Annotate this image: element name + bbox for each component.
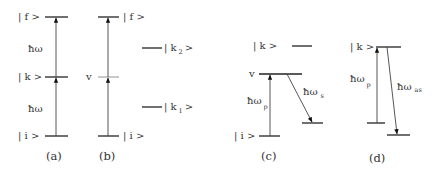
level-label-k: | k > <box>18 71 42 83</box>
anti-stokes-arrow <box>387 47 397 134</box>
photon-label-upper: ħω <box>28 43 43 54</box>
level-label-k: | k > <box>253 40 277 52</box>
pump-photon-label: ħωp <box>350 73 371 89</box>
level-label-v: v <box>85 71 92 82</box>
level-label-i: | i > <box>234 130 255 142</box>
panel-d: | k > ħωp ħωas (d) <box>350 41 422 165</box>
energy-level-diagram: | f > | k > | i > ħω ħω (a) | f > v | i … <box>0 0 437 172</box>
panel-b: | f > v | i > | k2> | k1> (b) <box>85 11 193 163</box>
pump-photon-label: ħωp <box>247 95 268 111</box>
caption-b: (b) <box>99 149 115 163</box>
level-label-f: | f > <box>18 11 40 23</box>
level-label-k2: | k2> <box>164 42 193 56</box>
level-label-k1: | k1> <box>164 101 193 115</box>
level-label-v: v <box>248 68 255 79</box>
level-label-i: | i > <box>123 130 144 142</box>
panel-c: | k > v | i > ħωp ħωs (c) <box>234 40 324 163</box>
level-label-k: | k > <box>350 41 374 53</box>
level-label-f: | f > <box>123 11 145 23</box>
photon-label-lower: ħω <box>28 103 43 114</box>
level-label-i: | i > <box>18 130 39 142</box>
caption-a: (a) <box>46 149 62 163</box>
anti-stokes-photon-label: ħωas <box>397 81 422 94</box>
stokes-arrow <box>287 74 312 122</box>
caption-d: (d) <box>369 151 385 165</box>
caption-c: (c) <box>261 149 276 163</box>
panel-a: | f > | k > | i > ħω ħω (a) <box>18 11 68 163</box>
stokes-photon-label: ħωs <box>303 86 324 100</box>
